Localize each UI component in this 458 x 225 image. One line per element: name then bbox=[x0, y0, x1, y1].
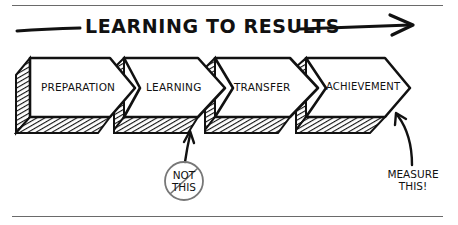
measure-this-line2: THIS! bbox=[383, 180, 443, 192]
step-achievement-shape bbox=[296, 58, 410, 133]
step-label-transfer: TRANSFER bbox=[234, 81, 291, 93]
step-label-learning: LEARNING bbox=[146, 81, 202, 93]
measure-this-arrow-icon bbox=[395, 113, 412, 165]
measure-this-label: MEASURE THIS! bbox=[383, 168, 443, 192]
title-arrow-left-line bbox=[17, 28, 80, 31]
step-label-preparation: PREPARATION bbox=[41, 81, 115, 93]
step-label-achievement: ACHIEVEMENT bbox=[326, 81, 400, 92]
not-this-arrow-icon bbox=[184, 131, 194, 162]
diagram-title: LEARNING TO RESULTS bbox=[85, 15, 340, 37]
not-this-label: NOT THIS bbox=[164, 169, 204, 193]
not-this-line1: NOT bbox=[164, 169, 204, 181]
measure-this-line1: MEASURE bbox=[383, 168, 443, 180]
not-this-line2: THIS bbox=[164, 181, 204, 193]
